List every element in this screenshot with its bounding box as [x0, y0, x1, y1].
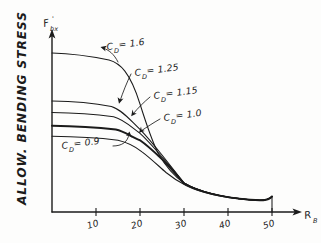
tick-label-20: 20 — [130, 218, 144, 231]
curve-label-cd-0-9-group: C D = 0.9 — [61, 135, 100, 154]
y-axis-title: ALLOW. BENDING STRESS — [15, 11, 29, 206]
leader-cd-1-15 — [133, 97, 150, 114]
y-axis-title-group: ALLOW. BENDING STRESS — [15, 11, 29, 206]
x-tick-labels: 10 20 30 40 50 — [86, 218, 276, 231]
y-axis-symbol-group: F ' bx — [42, 15, 58, 33]
tick-label-10: 10 — [86, 218, 100, 231]
tick-label-40: 40 — [218, 218, 232, 231]
curve-label-cd-1-6-symbol: C — [106, 40, 114, 52]
y-axis-symbol-subscript: bx — [50, 25, 58, 33]
curve-label-cd-1-0-value: = 1.0 — [175, 107, 202, 121]
curve-cd-1-25 — [52, 101, 272, 200]
leader-cd-1-25 — [120, 74, 131, 101]
curve-label-cd-1-15-symbol: C — [153, 89, 161, 101]
chart-canvas: ALLOW. BENDING STRESS 10 20 30 40 50 — [0, 0, 321, 243]
curve-label-cd-1-15-value: = 1.15 — [165, 84, 198, 99]
curve-label-cd-1-25-symbol: C — [134, 66, 142, 78]
leader-lines-group — [101, 46, 161, 146]
tick-label-50: 50 — [262, 218, 276, 231]
tick-label-30: 30 — [174, 218, 188, 231]
curve-label-cd-1-15-group: C D = 1.15 — [153, 84, 198, 104]
curve-label-cd-1-25-group: C D = 1.25 — [134, 61, 179, 81]
leader-cd-1-0 — [141, 119, 160, 131]
curve-label-cd-1-6-value: = 1.6 — [118, 36, 145, 50]
curve-label-cd-1-25-value: = 1.25 — [146, 61, 179, 76]
curves-group — [52, 53, 272, 212]
x-axis-symbol: R — [303, 209, 312, 221]
y-axis-symbol-prime: ' — [52, 15, 54, 23]
curve-label-cd-0-9-value: = 0.9 — [73, 135, 100, 149]
x-axis-symbol-subscript: B — [313, 217, 318, 225]
curve-label-cd-1-0-group: C D = 1.0 — [163, 107, 202, 126]
x-axis-symbol-group: R B — [303, 209, 318, 225]
figure-container: ALLOW. BENDING STRESS 10 20 30 40 50 — [0, 0, 321, 243]
curve-label-cd-1-0-symbol: C — [163, 111, 171, 123]
curve-cd-1-15 — [52, 113, 272, 201]
curve-label-cd-1-6-group: C D = 1.6 — [106, 36, 145, 55]
curve-label-cd-0-9-symbol: C — [61, 139, 69, 151]
